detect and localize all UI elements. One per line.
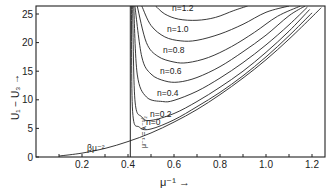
curve-label: βμ⁻² [87, 143, 105, 153]
y-tick-label: 20 [22, 37, 34, 48]
curve-label: n=1.0 [167, 24, 189, 34]
curve-label: n=1.2 [172, 3, 194, 13]
x-tick-label: 0.6 [167, 159, 181, 170]
y-tick-label: 0 [27, 152, 33, 163]
curve-label: n=0.6 [160, 66, 182, 76]
y-tick-label: 25 [22, 9, 34, 20]
x-tick-label: 1.2 [305, 159, 319, 170]
y-tick-label: 5 [27, 123, 33, 134]
curve-n-0-2 [133, 6, 310, 121]
chart: βμ⁻²n=0n=0.2n=0.4n=0.6n=0.8n=1.0n=1.2 0.… [0, 0, 332, 191]
vertical-line-label: μ⁻¹ = λ⁻¹⁄₂ [140, 116, 148, 148]
x-tick-label: 0.8 [213, 159, 227, 170]
curve-label: n=0.8 [163, 45, 185, 55]
curve-label: n=0.2 [150, 109, 172, 119]
x-tick-label: 0.4 [121, 159, 135, 170]
curve-n-1-2 [156, 6, 248, 20]
x-tick-label: 1.0 [259, 159, 273, 170]
y-axis-label: U₁ − U₃ → [10, 74, 21, 120]
x-tick-label: 0.2 [75, 159, 89, 170]
curves [59, 6, 321, 156]
x-axis-label: μ⁻¹ → [160, 176, 190, 188]
curve-label: n=0.4 [157, 88, 179, 98]
y-tick-label: 15 [22, 66, 34, 77]
y-tick-label: 10 [22, 94, 34, 105]
curve-- [59, 8, 321, 156]
x-axis: 0.20.40.60.81.01.2 [59, 154, 319, 170]
